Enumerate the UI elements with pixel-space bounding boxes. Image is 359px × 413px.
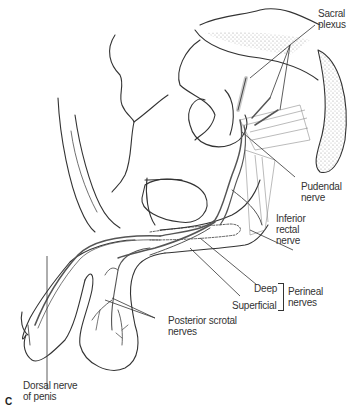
label-pudendal-nerve: Pudendal nerve: [301, 181, 342, 203]
label-posterior-scrotal-nerves: Posterior scrotal nerves: [168, 315, 237, 337]
label-line: nerves: [288, 297, 323, 308]
perineal-nerve-drawing: [0, 0, 359, 413]
label-sacral-plexus: Sacral plexus: [318, 8, 346, 30]
label-line: nerve: [301, 192, 342, 203]
panel-letter: C: [5, 396, 12, 407]
label-inferior-rectal-nerve: Inferior rectal nerve: [276, 213, 306, 246]
label-line: rectal: [276, 224, 306, 235]
label-line: of penis: [23, 391, 77, 402]
label-line: Dorsal nerve: [23, 380, 77, 391]
label-line: plexus: [318, 19, 346, 30]
label-line: Posterior scrotal: [168, 315, 237, 326]
label-deep: Deep: [254, 283, 277, 294]
label-line: Pudendal: [301, 181, 342, 192]
perineal-bracket: [278, 283, 284, 311]
label-line: Inferior: [276, 213, 306, 224]
label-dorsal-nerve-of-penis: Dorsal nerve of penis: [23, 380, 77, 402]
anatomical-illustration: Sacral plexus Pudendal nerve Inferior re…: [0, 0, 359, 413]
label-line: nerves: [168, 326, 237, 337]
label-superficial: Superficial: [232, 300, 277, 311]
label-perineal-nerves: Perineal nerves: [288, 286, 323, 308]
label-line: Sacral: [318, 8, 346, 19]
label-line: Perineal: [288, 286, 323, 297]
label-line: nerve: [276, 235, 306, 246]
